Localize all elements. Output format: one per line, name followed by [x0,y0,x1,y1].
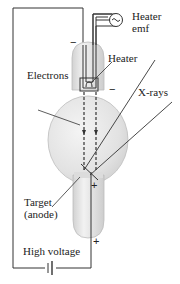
high-voltage-label: High voltage [23,245,80,257]
ac-source-icon [93,14,123,46]
cathode-minus-side: − [109,84,115,95]
xray-tube-diagram [0,0,180,284]
anode-plus-bottom: + [93,236,99,247]
target-label-line2: (anode) [24,208,58,220]
heater-emf-label-line2: emf [132,22,149,34]
tube-upper-neck [72,42,104,90]
heater-label: Heater [108,52,137,64]
anode-plus-inner: + [91,180,97,191]
xrays-label: X-rays [138,86,168,98]
tube-lower-neck [73,175,104,238]
electrons-label: Electrons [27,69,69,81]
battery-icon [48,261,52,275]
heater-emf-label-line1: Heater [132,10,161,22]
cathode-minus-top: − [70,37,76,48]
target-label-line1: Target [24,196,52,208]
